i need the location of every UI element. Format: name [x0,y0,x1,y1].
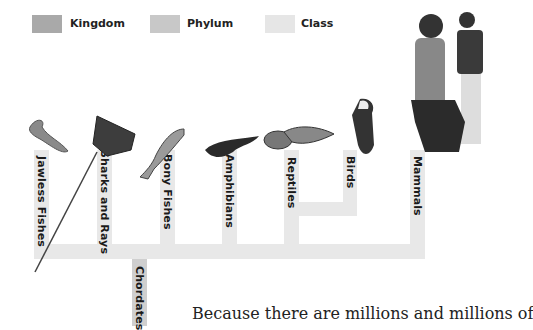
legend-swatch-kingdom [32,15,62,33]
body-text: Because there are millions and millions … [192,304,533,323]
salamander-icon [203,130,263,170]
eagle-icon [340,95,385,165]
trout-icon [134,125,189,185]
label-mammals: Mammals [411,156,424,216]
legend-label-phylum: Phylum [187,15,233,33]
legend-swatch-phylum [150,15,180,33]
stingray-icon [35,112,145,272]
label-reptiles: Reptiles [285,157,298,208]
people-and-dog-icon [405,12,505,157]
legend-swatch-class [265,15,295,33]
lizard-snake-icon [262,118,337,158]
legend-label-class: Class [301,15,333,33]
legend-label-kingdom: Kingdom [70,15,125,33]
label-chordates: Chordates [133,266,146,330]
